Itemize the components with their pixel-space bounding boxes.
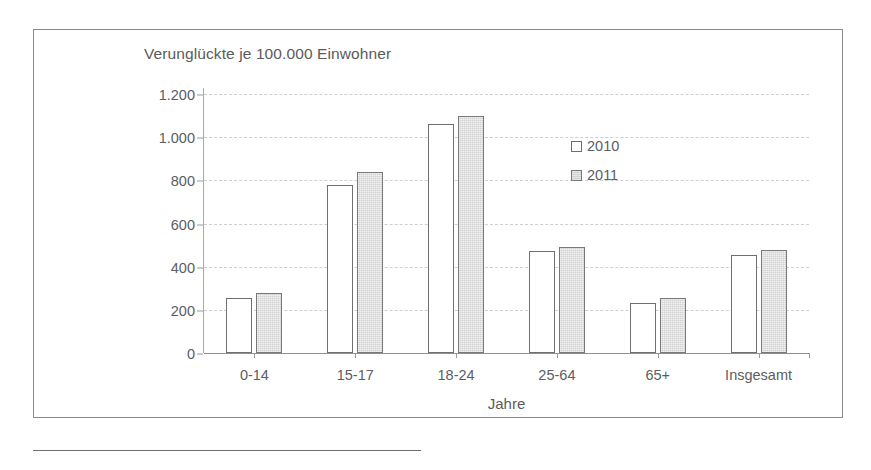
y-tickmark-400 [197,267,203,268]
legend-item-2010: 2010 [571,138,619,154]
y-tickmark-1000 [197,138,203,139]
x-tick-label-0: 0-14 [240,367,269,383]
chart-frame: Verunglückte je 100.000 Einwohner 1.200 … [33,29,843,418]
x-tickmark-end [809,353,810,358]
x-tick-label-3: 25-64 [538,367,575,383]
y-tick-label-200: 200 [171,303,195,319]
legend-label-2010: 2010 [587,138,619,154]
y-tick-label-1200: 1.200 [159,87,195,103]
bar-group-0-14: 0-14 [204,94,305,353]
x-tick-label-5: Insgesamt [725,367,792,383]
y-tick-label-400: 400 [171,260,195,276]
bar-2011-65- [660,298,686,353]
bar-2010-25-64 [529,251,555,353]
y-tick-label-1000: 1.000 [159,130,195,146]
x-tickmark-3 [557,353,558,358]
y-tick-label-800: 800 [171,173,195,189]
bar-2010-insgesamt [731,255,757,353]
x-axis-title: Jahre [204,395,809,412]
bar-2011-0-14 [256,293,282,353]
x-tick-label-4: 65+ [645,367,670,383]
bar-2011-15-17 [357,172,383,353]
bar-groups: 0-1415-1718-2425-6465+Insgesamt [204,94,809,353]
legend-swatch-2010-icon [571,141,582,152]
bar-2011-insgesamt [761,250,787,353]
bar-group-65-: 65+ [607,94,708,353]
bar-2010-0-14 [226,298,252,353]
bar-2011-18-24 [458,116,484,353]
bar-2011-25-64 [559,247,585,353]
legend-label-2011: 2011 [587,167,618,183]
bar-2010-18-24 [428,124,454,353]
y-tickmark-1200 [197,95,203,96]
x-tick-label-2: 18-24 [438,367,475,383]
bar-2010-65- [630,303,656,353]
bar-group-15-17: 15-17 [305,94,406,353]
x-tickmark-5 [759,353,760,358]
axis-baseline-0: 0 [204,353,809,354]
plot-area: 1.200 1.000 800 600 400 200 0 0-1415-171… [204,94,809,353]
footnote-separator-rule [33,450,421,451]
x-tickmark-2 [456,353,457,358]
y-tick-label-0: 0 [187,346,195,362]
y-tick-label-600: 600 [171,217,195,233]
x-tick-label-1: 15-17 [337,367,374,383]
x-tickmark-0 [254,353,255,358]
bar-group-insgesamt: Insgesamt [708,94,809,353]
bar-group-25-64: 25-64 [507,94,608,353]
bar-2010-15-17 [327,185,353,353]
legend-item-2011: 2011 [571,167,619,183]
chart-legend: 2010 2011 [571,138,619,183]
y-tickmark-800 [197,181,203,182]
y-tickmark-200 [197,310,203,311]
bar-group-18-24: 18-24 [406,94,507,353]
chart-title: Verunglückte je 100.000 Einwohner [144,45,391,63]
y-tickmark-600 [197,224,203,225]
x-tickmark-4 [658,353,659,358]
y-tickmark-0 [197,354,203,355]
x-tickmark-1 [355,353,356,358]
legend-swatch-2011-icon [571,170,582,181]
